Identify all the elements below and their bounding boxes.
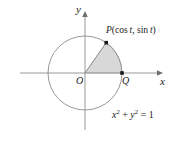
unit-circle-figure: y x O Q P(cos t, sin t) x2 + y2 = 1: [0, 0, 175, 150]
y-axis-arrow-icon: [82, 11, 88, 17]
point-p-label: P(cos t, sin t): [106, 26, 156, 36]
circle-equation-label: x2 + y2 = 1: [112, 110, 154, 120]
origin-label: O: [76, 76, 83, 86]
figure-canvas: [0, 0, 175, 150]
point-p-sin: sin: [137, 25, 148, 35]
point-p-marker: [104, 41, 108, 45]
point-q-label: Q: [122, 76, 129, 86]
y-axis-label: y: [76, 4, 81, 15]
point-p-cos: cos: [115, 25, 128, 35]
equation-plus: +: [120, 109, 131, 120]
point-p-close-paren: ): [153, 25, 156, 35]
x-axis-label: x: [160, 76, 165, 87]
equation-equals: = 1: [138, 109, 154, 120]
